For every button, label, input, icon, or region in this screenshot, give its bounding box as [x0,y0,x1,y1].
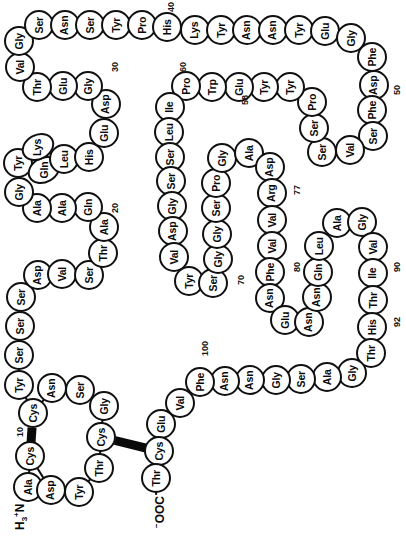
residue-label: Val [345,143,356,158]
residue-label: Tyr [216,23,227,38]
residue-label: Glu [280,312,291,329]
residue-label: Glu [156,416,167,433]
residue-label: Thr [98,245,109,261]
residue-label: Val [267,213,278,228]
residue-label: His [162,19,173,35]
residue-label: Glu [58,78,69,95]
residue-label: Val [169,250,180,265]
residue-91-ile: Ile [358,258,388,288]
position-number-90: 90 [392,262,402,272]
residue-label: Asp [265,157,276,176]
residue-label: Lys [190,21,201,38]
residue-label: Ala [322,369,333,385]
residue-98-gly: Gly [261,365,291,395]
residue-41-his: His [152,12,182,42]
residue-label: Thr [368,292,379,308]
residue-label: Phe [195,373,206,392]
residue-label: Ser [368,128,379,144]
residue-label: Gly [14,33,25,49]
residue-label: Ser [166,173,177,189]
residue-label: Thr [366,345,377,361]
residue-label: Ser [165,149,176,165]
residue-label: Ser [85,17,96,33]
residue-label: Val [57,267,68,282]
disulfide-bond [114,436,147,452]
residue-label: Ser [15,318,26,334]
residue-53-val: Val [335,135,365,165]
residue-label: Pro [181,78,192,95]
residue-4-tyr: Tyr [64,477,94,507]
residue-label: Tyr [13,156,24,171]
residue-label: Gly [167,198,178,214]
residue-2-cys: Cys [15,441,45,471]
position-number-70: 70 [236,275,246,285]
residue-label: Ser [75,382,86,398]
residue-label: Val [175,396,186,411]
residue-label: Gly [83,78,94,94]
residue-label: Arg [267,184,278,201]
residue-label: Gly [217,150,228,166]
residue-11-tyr: Tyr [4,370,34,400]
residue-34-val: Val [5,52,35,82]
residue-label: Lys [33,138,44,155]
residue-103-glu: Glu [146,409,176,439]
residue-label: Asp [168,221,179,240]
residue-10-cys: Cys [18,398,48,428]
position-number-58: 58 [240,95,250,105]
residue-label: Gly [271,372,282,388]
residue-label: Leu [314,237,325,255]
residue-18-thr: Thr [88,238,118,268]
residue-label: Ile [165,101,176,112]
residue-label: Ser [34,17,45,33]
residue-72-gly: Gly [202,219,232,249]
residue-29-glu: Glu [89,118,119,148]
residue-55-ser: Ser [299,113,329,143]
residue-104-cys: Cys [144,436,174,466]
residue-96-ala: Ala [312,362,342,392]
residue-label: Ser [84,267,95,283]
residue-label: His [84,149,95,165]
residue-label: Cys [96,428,107,447]
position-number-100: 100 [200,341,210,356]
residue-8-ser: Ser [65,375,95,405]
residue-label: Ser [211,200,222,216]
position-number-50: 50 [392,85,402,95]
residue-label: Cys [28,404,39,423]
residue-label: Phe [367,101,378,120]
residue-label: Asn [245,370,256,389]
residue-label: Pro [211,175,222,192]
residue-label: Gly [99,398,110,414]
residue-label: Ser [296,371,307,387]
residue-3-asp: Asp [36,475,66,505]
residue-32-glu: Glu [48,71,78,101]
residue-label: Tyr [259,80,270,95]
residue-23-gly: Gly [4,177,34,207]
residue-label: Tyr [184,274,195,289]
position-number-20: 20 [110,203,120,213]
residue-label: Asn [220,371,231,390]
residue-label: Ser [309,120,320,136]
protein-structure-diagram: AlaCysAspTyrThrCysGlySerAsnCysTyrSerSerS… [0,0,406,544]
residue-label: Glu [320,23,331,40]
residue-label: Thr [32,79,43,95]
residue-86-gln: Gln [303,257,333,287]
residue-label: Ala [32,200,43,216]
residue-label: Trp [207,79,218,95]
residue-20-gln: Gln [73,192,103,222]
position-number-77: 77 [292,185,302,195]
residue-label: Asn [265,288,276,307]
residue-label: Gly [347,365,358,381]
position-number-10: 10 [15,427,25,437]
residue-label: His [367,319,378,335]
residue-label: Gln [313,264,324,281]
residue-label: Leu [164,123,175,141]
residue-label: Pro [307,94,318,111]
residue-label: Glu [99,125,110,142]
residue-16-val: Val [47,259,77,289]
residue-label: Ala [99,219,110,235]
position-number-40: 40 [166,2,176,12]
residue-label: Leu [59,150,70,168]
position-number-30: 30 [110,62,120,72]
residue-label: Asn [304,312,315,331]
residue-label: Val [267,239,278,254]
